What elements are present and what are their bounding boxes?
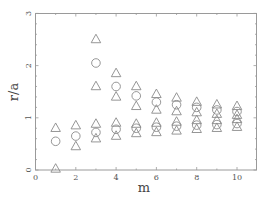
- circle-marker: [192, 121, 201, 130]
- triangle-marker: [132, 81, 142, 90]
- triangle-marker: [91, 119, 101, 128]
- triangle-marker: [51, 164, 61, 173]
- triangle-marker: [51, 123, 61, 132]
- data-markers: [51, 34, 242, 172]
- circle-marker: [112, 82, 121, 91]
- tick-labels: 02468100123: [24, 11, 242, 182]
- y-axis-label: r/a: [6, 83, 21, 102]
- plot-frame: [36, 14, 257, 171]
- triangle-marker: [152, 105, 162, 114]
- triangle-marker: [71, 120, 81, 129]
- circle-marker: [92, 128, 101, 137]
- triangle-marker: [172, 126, 182, 135]
- y-tick-label: 0: [24, 167, 33, 172]
- circle-marker: [213, 106, 222, 115]
- circle-marker: [233, 119, 242, 128]
- triangle-marker: [172, 93, 182, 102]
- y-tick-label: 2: [24, 63, 33, 68]
- circle-marker: [72, 132, 81, 141]
- circle-marker: [172, 100, 181, 109]
- x-tick-label: 6: [154, 173, 159, 182]
- x-tick-label: 8: [194, 173, 199, 182]
- y-tick-label: 1: [24, 115, 33, 120]
- x-tick-label: 4: [114, 173, 119, 182]
- triangle-marker: [111, 68, 121, 77]
- triangle-marker: [71, 141, 81, 150]
- triangle-marker: [152, 89, 162, 98]
- triangle-marker: [91, 81, 101, 90]
- circle-marker: [213, 120, 222, 129]
- circle-marker: [132, 92, 141, 101]
- x-tick-label: 2: [73, 173, 78, 182]
- circle-marker: [92, 59, 101, 68]
- scatter-chart: 02468100123 m r/a: [0, 0, 271, 204]
- plot-area-border: [36, 14, 257, 171]
- triangle-marker: [111, 92, 121, 101]
- x-tick-label: 0: [33, 173, 38, 182]
- triangle-marker: [91, 34, 101, 43]
- triangle-marker: [132, 101, 142, 110]
- axis-ticks: [36, 13, 257, 170]
- x-tick-label: 10: [232, 173, 242, 182]
- x-axis-label: m: [138, 180, 150, 195]
- y-tick-label: 3: [24, 11, 33, 16]
- circle-marker: [51, 137, 60, 146]
